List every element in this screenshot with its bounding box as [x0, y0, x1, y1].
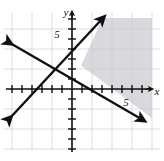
coordinate-plane-graph: 5 5 y x [0, 0, 164, 161]
graph-figure: 5 5 y x [0, 0, 164, 161]
y-axis-tick-label-5: 5 [54, 28, 60, 40]
x-axis-label: x [154, 85, 160, 97]
y-axis-label: y [63, 6, 69, 18]
x-axis-tick-label-5: 5 [123, 96, 129, 108]
shaded-solution-region [81, 18, 152, 118]
